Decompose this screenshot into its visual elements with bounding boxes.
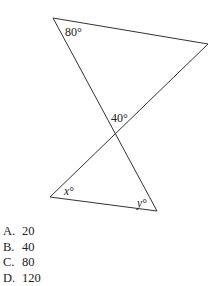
angle-y-label: y° <box>136 197 147 210</box>
choice-a[interactable]: A.20 <box>3 224 41 240</box>
choice-value: 40 <box>22 240 35 254</box>
choice-c[interactable]: C.80 <box>3 255 41 271</box>
choice-letter: D. <box>3 271 22 286</box>
choice-letter: C. <box>3 255 22 271</box>
choice-value: 20 <box>22 224 35 238</box>
right-transversal <box>50 44 208 197</box>
angle-80-label: 80° <box>65 25 82 39</box>
choice-letter: B. <box>3 240 22 256</box>
choice-value: 120 <box>22 271 41 285</box>
choice-letter: A. <box>3 224 22 240</box>
choice-value: 80 <box>22 255 35 269</box>
left-transversal <box>53 18 157 211</box>
triangle-diagram: 80° 40° x° y° <box>0 0 223 220</box>
angle-40-label: 40° <box>111 111 128 125</box>
choice-d[interactable]: D.120 <box>3 271 41 286</box>
choice-b[interactable]: B.40 <box>3 240 41 256</box>
answer-choices: A.20 B.40 C.80 D.120 <box>3 224 41 286</box>
angle-x-label: x° <box>63 185 74 197</box>
